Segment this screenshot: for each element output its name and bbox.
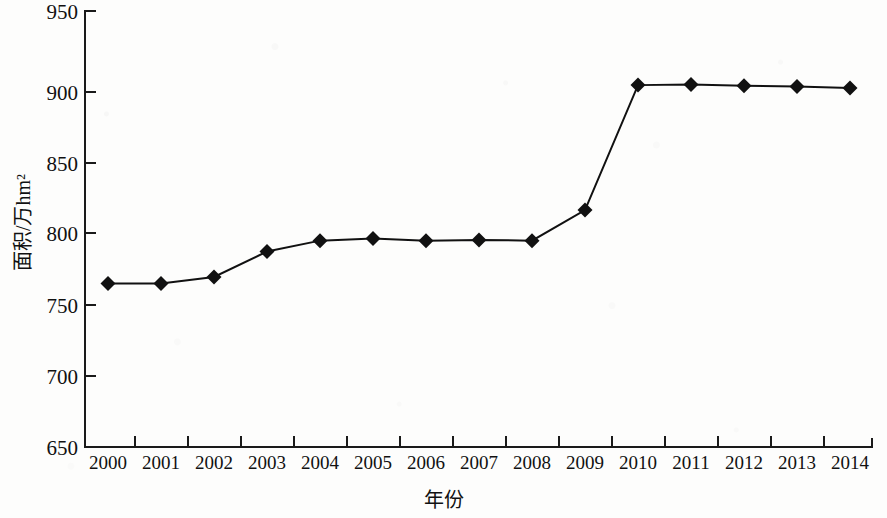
x-tick-label-2014: 2014	[820, 452, 880, 474]
data-point-2010	[631, 78, 646, 93]
data-point-2005	[366, 231, 381, 246]
y-axis-ticks	[85, 92, 96, 376]
data-point-2001	[154, 276, 169, 291]
data-point-2014	[843, 81, 858, 96]
y-tick-label-900: 900	[18, 81, 78, 106]
x-tick-label-2007: 2007	[449, 452, 509, 474]
x-tick-label-2010: 2010	[608, 452, 668, 474]
chart-figure: 950 900 850 800 750 700 650 200020012002…	[0, 0, 887, 518]
y-tick-label-700: 700	[18, 365, 78, 390]
data-point-2000	[101, 276, 116, 291]
x-tick-label-2008: 2008	[502, 452, 562, 474]
x-tick-label-2012: 2012	[714, 452, 774, 474]
x-tick-label-2009: 2009	[555, 452, 615, 474]
data-point-2007	[472, 232, 487, 247]
x-axis-title: 年份	[0, 484, 887, 513]
x-axis-ticks	[135, 436, 824, 447]
data-point-2006	[419, 233, 434, 248]
x-tick-label-2006: 2006	[396, 452, 456, 474]
y-tick-label-650: 650	[18, 436, 78, 461]
x-tick-label-2013: 2013	[767, 452, 827, 474]
series-line	[108, 84, 850, 283]
axis-frame	[85, 11, 872, 447]
y-tick-label-750: 750	[18, 294, 78, 319]
x-tick-label-2003: 2003	[237, 452, 297, 474]
x-tick-label-2005: 2005	[343, 452, 403, 474]
y-tick-label-950: 950	[18, 0, 78, 25]
y-axis-title: 面积/万hm²	[7, 158, 36, 288]
series-markers	[101, 77, 858, 291]
x-tick-label-2004: 2004	[290, 452, 350, 474]
x-tick-label-2011: 2011	[661, 452, 721, 474]
data-point-2011	[684, 77, 699, 92]
data-point-2008	[525, 233, 540, 248]
data-point-2003	[260, 244, 275, 259]
x-tick-label-2002: 2002	[184, 452, 244, 474]
data-point-2012	[737, 78, 752, 93]
line-chart-plot	[0, 0, 887, 518]
data-point-2013	[790, 79, 805, 94]
x-tick-label-2000: 2000	[78, 452, 138, 474]
data-point-2004	[313, 233, 328, 248]
data-point-2002	[207, 269, 222, 284]
x-tick-label-2001: 2001	[131, 452, 191, 474]
data-point-2009	[578, 203, 593, 218]
